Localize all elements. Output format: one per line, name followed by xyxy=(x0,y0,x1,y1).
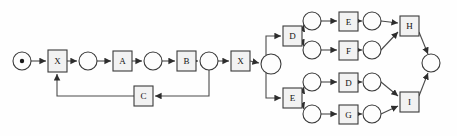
arc-pgout-to-i xyxy=(381,106,398,114)
arc-split-to-d1 xyxy=(266,36,281,55)
transition-h-join[interactable]: H xyxy=(400,16,419,36)
transition-x-second[interactable]: X xyxy=(231,51,250,71)
place-after-f[interactable] xyxy=(363,41,381,59)
place-after-f-circle xyxy=(363,41,381,59)
place-branch-e-upper[interactable] xyxy=(303,73,321,91)
token-dot-icon xyxy=(20,59,24,63)
place-branch-d-upper[interactable] xyxy=(303,12,321,30)
transition-x-first-label: X xyxy=(54,56,61,66)
petri-net-canvas: XABCXDEEFDGHI xyxy=(0,0,457,136)
place-3-circle xyxy=(200,52,218,70)
petri-net-svg: XABCXDEEFDGHI xyxy=(0,0,457,136)
transition-e-branch-label: E xyxy=(346,17,352,27)
transition-d-upper[interactable]: D xyxy=(283,26,302,46)
arc-p3-to-c xyxy=(155,70,209,96)
place-after-e[interactable] xyxy=(363,12,381,30)
arc-split-to-e1 xyxy=(266,73,281,98)
arc-i-to-end xyxy=(419,73,428,96)
transition-f-branch[interactable]: F xyxy=(339,41,358,60)
place-after-g-circle xyxy=(363,105,381,123)
transition-f-branch-label: F xyxy=(346,46,351,56)
place-1-circle xyxy=(79,52,97,70)
arc-pfout-to-h xyxy=(381,32,398,50)
transition-e-lower-label: E xyxy=(290,93,296,103)
place-branch-e-lower-circle xyxy=(303,105,321,123)
transition-b-label: B xyxy=(183,56,189,66)
place-after-g[interactable] xyxy=(363,105,381,123)
place-1[interactable] xyxy=(79,52,97,70)
place-branch-d-lower-circle xyxy=(303,41,321,59)
transition-g-branch-label: G xyxy=(345,110,352,120)
transition-x-first[interactable]: X xyxy=(48,50,67,72)
place-branch-e-upper-circle xyxy=(303,73,321,91)
place-2-circle xyxy=(144,52,162,70)
transition-i-join-label: I xyxy=(408,97,411,107)
split-place-circle xyxy=(261,54,281,74)
transition-d-branch[interactable]: D xyxy=(339,73,358,92)
transition-x-second-label: X xyxy=(237,56,244,66)
arc-peout-to-h xyxy=(381,21,398,23)
arc-h-to-end xyxy=(419,32,428,54)
place-3[interactable] xyxy=(200,52,218,70)
transitions-layer: XABCXDEEFDGHI xyxy=(48,12,419,124)
place-branch-e-lower[interactable] xyxy=(303,105,321,123)
transition-b[interactable]: B xyxy=(177,51,196,71)
place-after-d2-circle xyxy=(363,73,381,91)
transition-e-branch[interactable]: E xyxy=(339,12,358,31)
arc-c-to-x1 xyxy=(57,74,134,96)
end-place[interactable] xyxy=(422,54,440,72)
arc-pdout-to-i xyxy=(381,82,398,96)
places-layer xyxy=(13,12,440,123)
start-place[interactable] xyxy=(13,52,31,70)
transition-a[interactable]: A xyxy=(113,51,132,71)
place-branch-d-lower[interactable] xyxy=(303,41,321,59)
arc-x2-to-split xyxy=(250,61,259,63)
transition-h-join-label: H xyxy=(406,21,413,31)
place-branch-d-upper-circle xyxy=(303,12,321,30)
transition-g-branch[interactable]: G xyxy=(339,105,358,124)
transition-i-join[interactable]: I xyxy=(400,92,419,112)
end-place-circle xyxy=(422,54,440,72)
split-place[interactable] xyxy=(261,54,281,74)
transition-d-upper-label: D xyxy=(289,31,296,41)
place-after-e-circle xyxy=(363,12,381,30)
place-2[interactable] xyxy=(144,52,162,70)
transition-a-label: A xyxy=(119,56,126,66)
place-after-d2[interactable] xyxy=(363,73,381,91)
transition-d-branch-label: D xyxy=(345,78,352,88)
transition-c[interactable]: C xyxy=(134,86,153,106)
transition-c-label: C xyxy=(140,91,146,101)
transition-e-lower[interactable]: E xyxy=(283,88,302,108)
